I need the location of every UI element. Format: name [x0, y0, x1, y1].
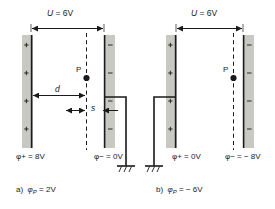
panel-a-voltage-symbol: U [47, 8, 53, 18]
panel-a-plate-positive [22, 35, 33, 148]
panel-a-voltage-label: U = 6V [47, 9, 73, 18]
panel-b-plate-negative-label: φ− = − 8V [225, 153, 261, 161]
panel-a-caption-value: = 2V [39, 185, 56, 194]
panel-b-voltage-dimension [176, 24, 243, 32]
panel-a-point-p [83, 75, 89, 81]
panel-b-plate-positive [166, 35, 177, 148]
panel-b-voltage-symbol: U [191, 8, 197, 18]
panel-a-caption: a) φP = 2V [16, 186, 56, 194]
panel-a-plate-negative [104, 35, 115, 148]
panel-a-caption-symbol: φ [28, 185, 33, 194]
panel-a-voltage-value: = 6V [56, 8, 74, 18]
panel-b-plate-positive-label: φ+ = 0V [172, 153, 201, 161]
panel-a-dim-s-label: s [91, 104, 95, 113]
panel-b-voltage-value: = 6V [200, 8, 218, 18]
diagram-canvas [0, 0, 275, 209]
figure-root: U = 6V U = 6V P P d s φ+ = 8V φ− = 0V φ+… [0, 0, 275, 209]
panel-a-plate-positive-label: φ+ = 8V [16, 153, 45, 161]
panel-b-caption-sub: P [173, 189, 177, 195]
panel-b-voltage-label: U = 6V [191, 9, 217, 18]
panel-b-point-p [230, 75, 236, 81]
panel-b-plate-negative [243, 35, 254, 148]
panel-a-voltage-dimension [31, 24, 104, 32]
panel-b-point-label: P [223, 66, 228, 74]
panel-a-plate-negative-label: φ− = 0V [94, 153, 123, 161]
panel-b-caption-symbol: φ [168, 185, 173, 194]
panel-a-caption-index: a) [16, 185, 23, 194]
panel-b-caption-index: b) [156, 185, 163, 194]
panel-a-caption-sub: P [33, 189, 37, 195]
panel-a-point-label: P [76, 66, 81, 74]
panel-a-dim-d-label: d [55, 85, 60, 94]
panel-b-caption-value: = − 6V [179, 185, 203, 194]
panel-b-caption: b) φP = − 6V [156, 186, 203, 194]
